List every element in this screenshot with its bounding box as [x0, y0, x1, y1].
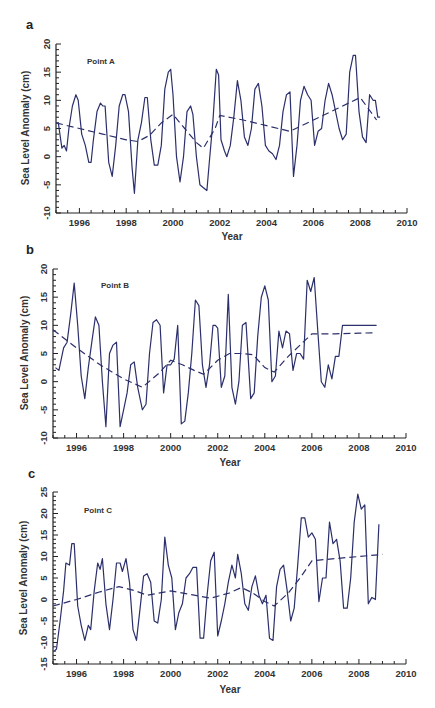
y-tick-label: 5 — [38, 575, 49, 581]
y-tick-label: 15 — [38, 291, 49, 302]
y-tick-label: 20 — [38, 508, 49, 519]
y-tick-label: 15 — [38, 529, 49, 540]
y-tick-label: 15 — [41, 66, 52, 77]
y-tick-label: -5 — [38, 405, 49, 414]
y-tick-label: 0 — [38, 597, 49, 602]
y-axis-title: Sea Level Anomaly (cm) — [20, 71, 31, 186]
x-tick-label: 2004 — [254, 442, 276, 453]
y-tick-label: 0 — [38, 379, 49, 384]
y-tick-label: -10 — [41, 206, 52, 220]
x-tick-label: 1998 — [116, 217, 137, 228]
point-label: Point B — [101, 281, 129, 290]
x-axis-title: Year — [219, 684, 240, 695]
x-tick-label: 2006 — [301, 442, 322, 453]
x-tick-label: 2008 — [348, 668, 369, 679]
x-tick-label: 1996 — [66, 442, 87, 453]
y-tick-label: -5 — [41, 180, 52, 189]
y-tick-label: 20 — [38, 264, 49, 275]
plot-area — [56, 55, 380, 193]
y-tick-label: 0 — [41, 154, 52, 159]
trend-line — [56, 98, 377, 149]
y-tick-label: 10 — [41, 95, 52, 106]
x-tick-label: 2002 — [209, 217, 230, 228]
y-tick-label: 10 — [38, 551, 49, 562]
panel-b-chart: b Point B Sea Level Anomaly (cm) Year 19… — [19, 242, 417, 468]
x-tick-label: 1996 — [66, 668, 87, 679]
x-axis-title: Year — [221, 231, 242, 242]
plot-area — [53, 278, 377, 427]
x-tick-label: 2004 — [256, 217, 278, 228]
y-tick-label: -10 — [38, 636, 49, 650]
x-tick-label: 2000 — [162, 217, 183, 228]
x-tick-label: 2008 — [350, 217, 371, 228]
anomaly-line — [58, 55, 380, 193]
anomaly-line — [54, 494, 379, 651]
y-axis-title: Sea Level Anomaly (cm) — [18, 521, 29, 636]
x-tick-label: 2006 — [303, 217, 324, 228]
y-tick-label: 25 — [38, 486, 49, 497]
y-tick-label: 5 — [38, 350, 49, 356]
x-tick-label: 2010 — [395, 442, 416, 453]
x-tick-label: 1998 — [113, 668, 134, 679]
x-tick-label: 1996 — [69, 217, 90, 228]
y-tick-label: 20 — [41, 39, 52, 50]
x-tick-label: 2000 — [160, 668, 181, 679]
y-tick-label: 10 — [38, 320, 49, 331]
point-label: Point A — [87, 57, 115, 66]
x-tick-label: 2000 — [160, 442, 181, 453]
x-tick-label: 2002 — [207, 442, 228, 453]
axes: 19961998200020022004200620082010-10-5051… — [38, 264, 417, 453]
panel-c-chart: c Point C Sea Level Anomaly (cm) Year 19… — [18, 466, 417, 695]
anomaly-line — [55, 278, 376, 427]
figure: a Point A Sea Level Anomaly (cm) Year 19… — [0, 0, 435, 708]
x-tick-label: 2006 — [301, 668, 322, 679]
panel-letter: a — [26, 17, 34, 32]
x-tick-label: 2008 — [348, 442, 369, 453]
plot-area — [53, 494, 383, 651]
x-tick-label: 2004 — [254, 668, 276, 679]
x-axis-title: Year — [219, 457, 240, 468]
panel-a-chart: a Point A Sea Level Anomaly (cm) Year 19… — [20, 17, 418, 242]
x-tick-label: 2002 — [207, 668, 228, 679]
panel-letter: b — [26, 242, 34, 257]
y-tick-label: 5 — [41, 125, 52, 131]
x-tick-label: 2010 — [396, 217, 417, 228]
y-tick-label: -5 — [38, 616, 49, 625]
y-tick-label: -15 — [38, 656, 49, 670]
y-tick-label: -10 — [38, 431, 49, 445]
y-axis-title: Sea Level Anomaly (cm) — [19, 296, 30, 411]
x-tick-label: 2010 — [395, 668, 416, 679]
panel-letter: c — [28, 466, 35, 481]
x-tick-label: 1998 — [113, 442, 134, 453]
axes: 19961998200020022004200620082010-10-5051… — [41, 39, 418, 228]
point-label: Point C — [84, 506, 112, 515]
